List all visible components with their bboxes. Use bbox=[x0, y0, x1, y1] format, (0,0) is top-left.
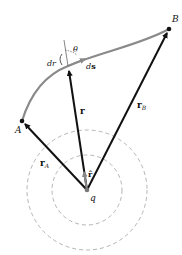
vector-rB bbox=[87, 33, 167, 190]
electric-potential-diagram: A B q r rA rB r̂ θ dr ds bbox=[0, 0, 182, 255]
label-dr: dr bbox=[47, 59, 57, 68]
label-B: B bbox=[171, 14, 179, 24]
label-theta: θ bbox=[73, 45, 78, 54]
dr-bracket bbox=[60, 54, 62, 65]
label-rA: rA bbox=[40, 158, 50, 169]
charge-q bbox=[85, 188, 90, 193]
label-A: A bbox=[14, 125, 22, 135]
label-ds: ds bbox=[86, 61, 96, 71]
label-rB: rB bbox=[137, 100, 147, 111]
ds-arrow bbox=[68, 59, 85, 66]
point-A bbox=[20, 119, 25, 124]
label-q: q bbox=[90, 193, 96, 203]
path-curve bbox=[22, 29, 169, 121]
point-B bbox=[167, 27, 172, 32]
radial-extension-line bbox=[64, 40, 68, 66]
label-r: r bbox=[80, 106, 85, 116]
